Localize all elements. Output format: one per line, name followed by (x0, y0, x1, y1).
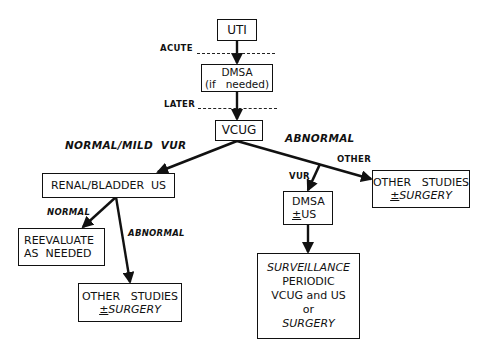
dmsa-label: DMSA (221, 66, 252, 78)
plus-minus-symbol: ± (390, 189, 399, 202)
uti-label: UTI (227, 24, 247, 37)
renal-bladder-us-label: RENAL/BLADDER US (51, 179, 166, 192)
surveillance-node: SURVEILLANCE PERIODIC VCUG and US or SUR… (257, 253, 360, 339)
other-studies-right-node: OTHER STUDIES ±SURGERY (372, 170, 470, 208)
reevaluate-line1: REEVALUATE (24, 234, 94, 247)
surveillance-line4: or (303, 303, 314, 317)
other-studies-left-line1: OTHER STUDIES (82, 290, 178, 303)
other-studies-right-line1: OTHER STUDIES (373, 176, 469, 189)
later-divider (198, 108, 277, 109)
if-needed-label: (if needed) (205, 78, 269, 90)
vur-edge-label: VUR (289, 171, 310, 181)
abnormal-us-edge-label: ABNORMAL (128, 228, 185, 238)
renal-bladder-us-node: RENAL/BLADDER US (42, 173, 175, 198)
abnormal-vcug-label: ABNORMAL (285, 132, 355, 144)
vcug-label: VCUG (222, 124, 257, 137)
surgery-label: SURGERY (108, 303, 161, 316)
surveillance-line2: PERIODIC (282, 275, 335, 289)
acute-label: ACUTE (160, 43, 193, 53)
plus-minus-symbol: ± (99, 303, 108, 316)
other-edge-label: OTHER (337, 154, 371, 164)
dmsa-initial-node: DMSA (if needed) (201, 64, 273, 92)
plus-minus-symbol: ± (292, 208, 301, 221)
later-label: LATER (164, 99, 195, 109)
normal-mild-vur-label: NORMAL/MILD VUR (65, 139, 187, 151)
surgery-label: SURGERY (399, 189, 452, 202)
us-label: US (301, 208, 316, 221)
surveillance-line1: SURVEILLANCE (267, 261, 350, 275)
acute-divider (197, 53, 275, 54)
reevaluate-line2: AS NEEDED (24, 247, 92, 260)
reevaluate-node: REEVALUATE AS NEEDED (18, 228, 105, 266)
surveillance-line5: SURGERY (282, 317, 335, 331)
normal-edge-label: NORMAL (47, 207, 90, 217)
surveillance-line3: VCUG and US (271, 289, 346, 303)
dmsa-us-line1: DMSA (292, 195, 325, 208)
arrow-renal-to-other-studies (116, 197, 130, 282)
other-studies-left-node: OTHER STUDIES ±SURGERY (78, 283, 182, 322)
uti-node: UTI (217, 19, 257, 41)
dmsa-us-node: DMSA ±US (283, 191, 333, 225)
vcug-node: VCUG (215, 120, 263, 141)
